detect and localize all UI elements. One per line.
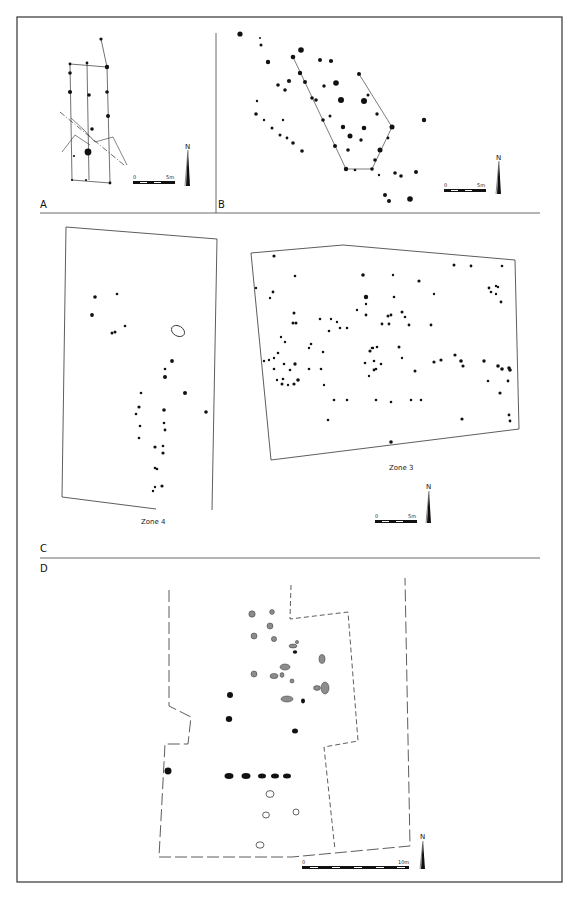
posthole bbox=[361, 273, 365, 277]
posthole bbox=[383, 193, 387, 197]
posthole bbox=[387, 199, 391, 203]
posthole bbox=[327, 419, 330, 422]
posthole bbox=[378, 148, 383, 153]
posthole bbox=[339, 327, 342, 330]
posthole bbox=[300, 149, 304, 153]
posthole bbox=[283, 363, 286, 366]
posthole bbox=[329, 59, 333, 63]
posthole bbox=[453, 264, 456, 267]
panel-a-scale-bar: 0 5m bbox=[133, 174, 175, 184]
panel-a-postholes bbox=[68, 37, 112, 184]
posthole bbox=[389, 440, 393, 444]
posthole bbox=[420, 399, 423, 402]
grey-feature bbox=[289, 644, 297, 648]
posthole bbox=[282, 119, 284, 121]
posthole bbox=[137, 405, 140, 408]
posthole bbox=[68, 71, 72, 75]
posthole bbox=[237, 31, 242, 36]
posthole bbox=[160, 484, 163, 487]
posthole bbox=[268, 359, 270, 361]
panel-d-north-arrow-icon: N bbox=[420, 833, 425, 869]
posthole bbox=[338, 97, 344, 103]
posthole bbox=[204, 410, 208, 414]
zone-3-boundary bbox=[251, 245, 519, 460]
posthole bbox=[470, 265, 473, 268]
wall-line bbox=[372, 127, 392, 169]
posthole bbox=[170, 359, 174, 363]
posthole bbox=[323, 384, 325, 386]
posthole bbox=[259, 37, 261, 39]
open-feature bbox=[256, 842, 264, 848]
grey-feature bbox=[281, 696, 293, 702]
posthole bbox=[292, 322, 295, 325]
posthole bbox=[414, 370, 417, 373]
posthole bbox=[361, 98, 367, 104]
panel-c-plan: Zone 4 Zone 3 0 5m N C bbox=[40, 227, 519, 554]
posthole bbox=[417, 279, 420, 282]
posthole bbox=[162, 408, 166, 412]
posthole bbox=[453, 353, 456, 356]
posthole bbox=[381, 323, 384, 326]
black-feature bbox=[301, 699, 305, 704]
posthole bbox=[482, 359, 485, 362]
posthole bbox=[152, 490, 154, 492]
posthole bbox=[407, 196, 413, 202]
posthole bbox=[460, 417, 463, 420]
grey-feature bbox=[270, 673, 278, 678]
posthole bbox=[346, 399, 349, 402]
zone-4-postholes bbox=[90, 293, 208, 492]
posthole bbox=[487, 380, 490, 383]
posthole bbox=[365, 303, 367, 305]
grey-feature bbox=[319, 655, 325, 664]
posthole bbox=[364, 295, 368, 299]
grey-feature bbox=[270, 610, 275, 615]
panel-b-label: B bbox=[218, 199, 225, 210]
zone-3-label: Zone 3 bbox=[389, 464, 414, 472]
posthole bbox=[308, 368, 311, 371]
posthole bbox=[500, 301, 503, 304]
posthole bbox=[273, 368, 276, 371]
posthole bbox=[310, 96, 314, 100]
posthole bbox=[284, 341, 286, 343]
panel-a-label: A bbox=[40, 199, 47, 210]
posthole bbox=[69, 63, 72, 66]
black-feature bbox=[258, 774, 266, 779]
posthole bbox=[292, 382, 295, 385]
posthole bbox=[105, 90, 109, 94]
posthole bbox=[277, 352, 280, 355]
posthole bbox=[293, 312, 296, 315]
black-feature bbox=[227, 692, 233, 698]
posthole bbox=[280, 336, 282, 338]
posthole bbox=[162, 445, 165, 448]
panel-d-inner-boundary bbox=[290, 585, 358, 850]
posthole bbox=[85, 149, 92, 156]
posthole bbox=[496, 364, 500, 368]
posthole bbox=[380, 363, 383, 366]
posthole bbox=[371, 347, 374, 350]
posthole bbox=[281, 383, 284, 386]
zone-4-pit bbox=[169, 323, 186, 339]
panel-d-label: D bbox=[40, 563, 48, 574]
posthole bbox=[461, 364, 464, 367]
posthole bbox=[322, 351, 325, 354]
posthole bbox=[430, 324, 433, 327]
posthole bbox=[373, 158, 377, 162]
panel-b-north-label: N bbox=[496, 154, 501, 162]
panel-d-open-features bbox=[256, 791, 299, 849]
posthole bbox=[370, 167, 374, 171]
grey-feature bbox=[251, 633, 257, 639]
black-feature bbox=[225, 773, 234, 779]
grey-feature bbox=[280, 673, 284, 678]
wall-line bbox=[72, 180, 110, 183]
panel-a-scale-start: 0 bbox=[133, 174, 136, 180]
posthole bbox=[291, 141, 295, 145]
panel-a-north-label: N bbox=[185, 143, 190, 151]
posthole bbox=[393, 296, 396, 299]
posthole bbox=[501, 265, 504, 268]
wall-line bbox=[101, 39, 107, 67]
posthole bbox=[393, 171, 397, 175]
posthole bbox=[356, 309, 358, 311]
posthole bbox=[414, 170, 418, 174]
posthole bbox=[287, 384, 289, 386]
posthole bbox=[124, 325, 127, 328]
